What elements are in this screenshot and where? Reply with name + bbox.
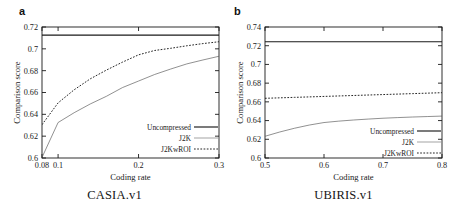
legend-label-uncompressed: Uncompressed — [370, 127, 414, 136]
y-tick-label: 0.74 — [247, 23, 261, 32]
legend-label-j2k: J2K — [402, 138, 415, 147]
series-group — [265, 42, 442, 137]
y-tick-label: 0.72 — [247, 42, 261, 51]
legend-label-j2kwroi: J2KwROI — [161, 145, 192, 154]
y-tick-label: 0.72 — [24, 23, 38, 32]
y-axis-title: Comparison score — [235, 61, 245, 123]
legend-label-uncompressed: Uncompressed — [147, 123, 191, 132]
y-tick-label: 0.7 — [251, 60, 261, 69]
y-tick-label: 0.68 — [24, 67, 38, 76]
panel-casia: a 0.080.10.20.30.60.620.640.660.680.70.7… — [0, 0, 229, 215]
series-line-j2kwroi — [265, 93, 442, 99]
legend: UncompressedJ2KJ2KwROI — [147, 123, 218, 154]
x-tick-label: 0.5 — [260, 161, 270, 170]
x-axis-title: Coding rate — [110, 172, 151, 182]
panel-caption-ubiris: UBIRIS.v1 — [229, 188, 458, 203]
chart-casia: 0.080.10.20.30.60.620.640.660.680.70.72C… — [0, 0, 229, 215]
series-line-j2kwroi — [42, 42, 219, 125]
x-tick-label: 0.6 — [319, 161, 329, 170]
series-line-j2k — [42, 56, 219, 157]
plot-frame — [265, 27, 442, 158]
panel-caption-casia: CASIA.v1 — [0, 188, 229, 203]
y-tick-label: 0.66 — [24, 88, 38, 97]
x-tick-label: 0.1 — [53, 161, 63, 170]
y-tick-label: 0.62 — [247, 135, 261, 144]
y-tick-label: 0.68 — [247, 79, 261, 88]
y-tick-label: 0.6 — [251, 154, 261, 163]
x-tick-label: 0.7 — [378, 161, 388, 170]
y-tick-label: 0.7 — [28, 45, 38, 54]
x-tick-label: 0.3 — [214, 161, 224, 170]
series-group — [42, 35, 219, 157]
plot-frame — [42, 27, 219, 158]
y-axis-title: Comparison score — [12, 61, 22, 123]
y-tick-label: 0.64 — [24, 110, 38, 119]
y-tick-label: 0.64 — [247, 116, 261, 125]
y-tick-label: 0.62 — [24, 132, 38, 141]
x-axis-title: Coding rate — [333, 172, 374, 182]
legend: UncompressedJ2KJ2KwROI — [370, 127, 441, 158]
figure-container: a 0.080.10.20.30.60.620.640.660.680.70.7… — [0, 0, 458, 215]
x-tick-label: 0.2 — [133, 161, 143, 170]
y-tick-label: 0.6 — [28, 154, 38, 163]
x-tick-label: 0.8 — [437, 161, 447, 170]
y-tick-label: 0.66 — [247, 98, 261, 107]
legend-label-j2k: J2K — [179, 134, 192, 143]
chart-ubiris: 0.50.60.70.80.60.620.640.660.680.70.720.… — [229, 0, 458, 215]
legend-label-j2kwroi: J2KwROI — [384, 149, 415, 158]
series-line-j2k — [265, 116, 442, 136]
panel-ubiris: b 0.50.60.70.80.60.620.640.660.680.70.72… — [229, 0, 458, 215]
